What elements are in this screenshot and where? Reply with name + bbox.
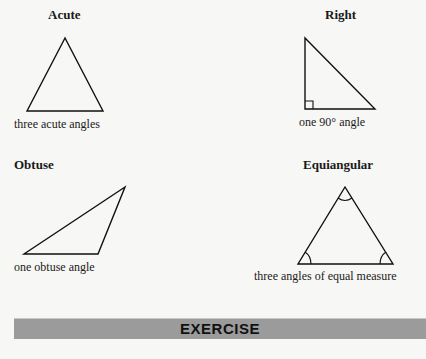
equiangular-title: Equiangular xyxy=(303,157,373,173)
equiangular-caption: three angles of equal measure xyxy=(254,269,397,284)
exercise-section-bar: EXERCISE xyxy=(14,318,426,339)
acute-caption: three acute angles xyxy=(14,117,100,132)
acute-triangle xyxy=(27,38,103,111)
angle-arc-right xyxy=(380,252,386,264)
obtuse-title: Obtuse xyxy=(14,157,54,173)
angle-arc-top xyxy=(338,198,352,201)
right-angle-marker xyxy=(305,101,313,109)
obtuse-caption: one obtuse angle xyxy=(14,260,95,275)
exercise-heading: EXERCISE xyxy=(14,320,426,337)
right-title: Right xyxy=(325,7,356,23)
right-triangle xyxy=(305,38,375,109)
right-caption: one 90° angle xyxy=(299,115,365,130)
equiangular-triangle xyxy=(298,187,393,264)
acute-title: Acute xyxy=(48,7,81,23)
angle-arc-left xyxy=(305,252,311,264)
obtuse-triangle xyxy=(24,187,125,254)
triangle-figures xyxy=(0,0,426,359)
